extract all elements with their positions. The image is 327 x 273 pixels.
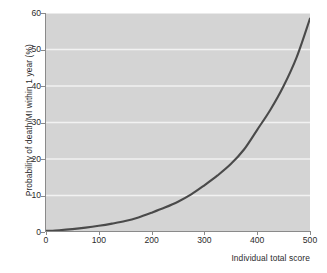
- x-tick-label: 200: [132, 236, 172, 245]
- x-tick-label: 100: [79, 236, 119, 245]
- x-tick-label: 0: [26, 236, 66, 245]
- chart-figure: 0102030405060 0100200300400500 Probabili…: [0, 0, 327, 273]
- x-axis-tick-labels: 0100200300400500: [0, 0, 327, 273]
- y-axis-title: Probability of death/MI within 1 year (%…: [25, 15, 33, 225]
- x-axis-title: Individual total score: [180, 254, 310, 262]
- x-tick-label: 300: [184, 236, 224, 245]
- x-tick-label: 400: [237, 236, 277, 245]
- x-tick-label: 500: [290, 236, 327, 245]
